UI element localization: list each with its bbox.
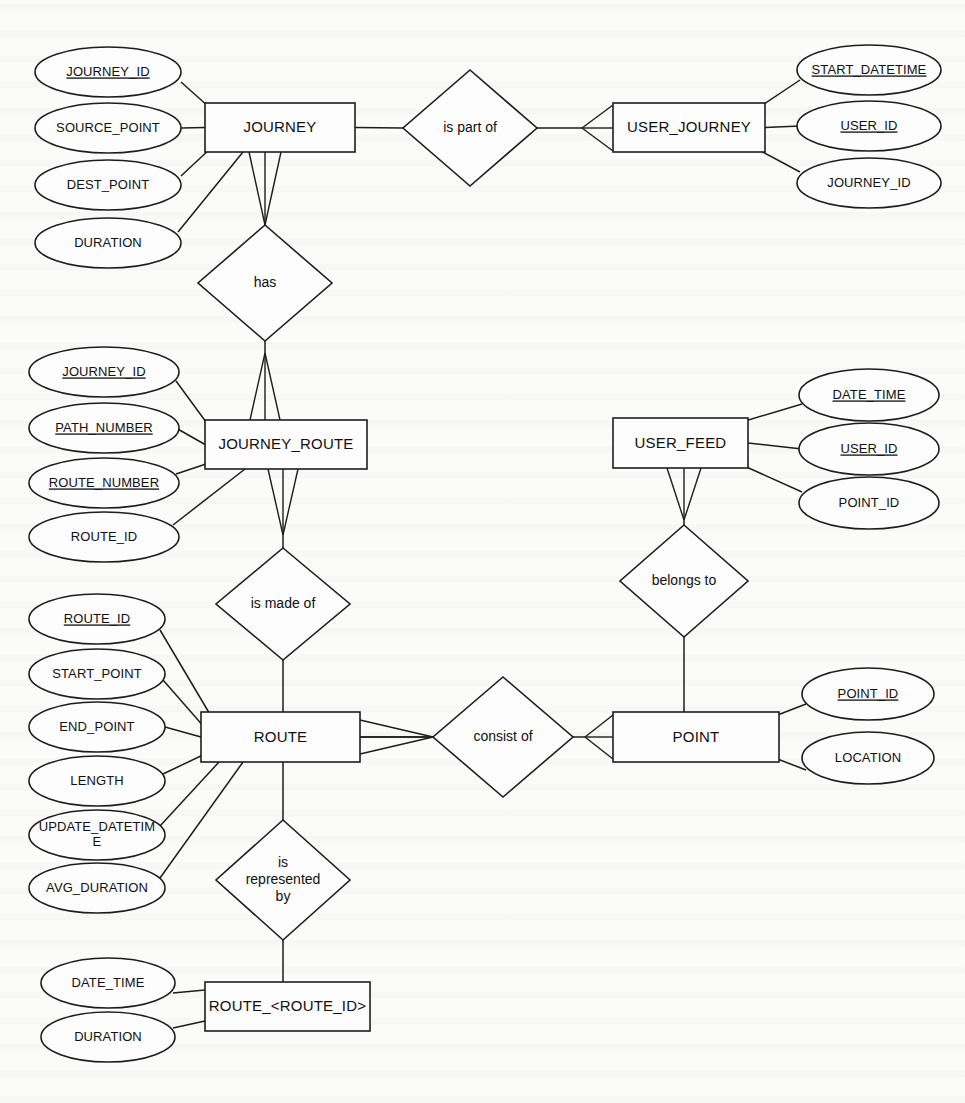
relationship-label: belongs to [652,572,717,588]
attr-link-rt-start-point [163,680,205,728]
attribute-label: START_POINT [52,666,141,681]
attribute-journey-0[interactable]: JOURNEY_ID [35,47,181,97]
attribute-label: PATH_NUMBER [55,420,152,435]
relationship-is-part-of[interactable]: is part of [403,70,537,186]
entity-label: JOURNEY_ROUTE [218,435,353,452]
attr-link-rt-avg-duration [160,762,243,878]
attribute-label: LOCATION [835,750,901,765]
attribute-label: ROUTE_ID [64,611,131,626]
crowsfoot-user-feed [684,468,701,520]
attribute-route_table-0[interactable]: DATE_TIME [41,958,175,1008]
entity-user_journey[interactable]: USER_JOURNEY [613,103,765,152]
attribute-user_feed-0[interactable]: DATE_TIME [799,369,939,421]
crowsfoot-journey-has [249,152,265,225]
crowsfoot-journey-has [265,152,281,225]
entity-point[interactable]: POINT [613,712,779,762]
attribute-journey-3[interactable]: DURATION [35,218,181,268]
entity-user_feed[interactable]: USER_FEED [613,418,748,468]
attribute-user_feed-2[interactable]: POINT_ID [799,477,939,529]
entity-journey[interactable]: JOURNEY [205,103,355,152]
attribute-route-4[interactable]: UPDATE_DATETIME [29,810,165,860]
attr-link-jr-route-number [176,463,209,474]
entity-route[interactable]: ROUTE [201,712,360,762]
attribute-label: DEST_POINT [67,177,150,192]
attribute-route-3[interactable]: LENGTH [29,756,165,806]
relationship-label: has [254,274,277,290]
attribute-label: START_DATETIME [812,62,927,77]
crowsfoot-point [585,737,613,759]
attribute-label: USER_ID [840,118,897,133]
crowsfoot-journey-route-top [250,353,265,420]
attribute-label: DATE_TIME [833,387,906,402]
relationship-label: is part of [443,119,497,135]
attribute-label: DURATION [74,235,142,250]
attr-link-start-datetime [761,80,800,106]
attribute-label: JOURNEY_ID [827,175,910,190]
attr-link-journey-id2 [759,150,800,172]
attr-link-rtt-duration [173,1021,205,1028]
attr-link-uf-date-time [745,404,802,421]
crowsfoot-user-journey [582,105,613,128]
attribute-label: ROUTE_ID [71,529,138,544]
attr-link-source-point [181,128,205,129]
attribute-user_journey-1[interactable]: USER_ID [797,101,941,151]
relationship-consist-of[interactable]: consist of [433,677,573,797]
attr-link-rt-end-point [165,727,201,737]
attribute-journey-2[interactable]: DEST_POINT [35,160,181,210]
attribute-label: DURATION [74,1029,142,1044]
attr-link-rt-length [163,754,205,774]
crowsfoot-journey-route-bottom [268,469,283,535]
attribute-journey_route-1[interactable]: PATH_NUMBER [29,403,179,453]
attribute-point-0[interactable]: POINT_ID [802,668,934,720]
relationship-is-represented-by[interactable]: isrepresentedby [216,820,350,940]
crowsfoot-journey-route-top [265,353,280,420]
attribute-journey-1[interactable]: SOURCE_POINT [35,103,181,153]
attribute-label: USER_ID [840,441,897,456]
attribute-point-1[interactable]: LOCATION [802,732,934,784]
attribute-route_table-1[interactable]: DURATION [41,1012,175,1062]
attr-link-rt-route-id [160,630,211,716]
attribute-label: END_POINT [59,719,134,734]
crowsfoot-user-journey [582,128,613,151]
attribute-journey_route-3[interactable]: ROUTE_ID [29,512,179,562]
rel-link-journey-ispartof [355,128,403,129]
attribute-user_feed-1[interactable]: USER_ID [799,423,939,475]
attr-link-uf-user-id [748,443,802,449]
attr-link-rtt-date-time [173,990,205,993]
entity-label: ROUTE [254,728,308,745]
entity-label: USER_FEED [635,434,727,451]
relationship-has[interactable]: has [198,225,332,341]
relationship-belongs-to[interactable]: belongs to [620,525,748,637]
crowsfoot-point [585,715,613,737]
crowsfoot-route-consistof [360,737,433,754]
attr-link-jr-path-number [176,428,205,445]
entity-route_table[interactable]: ROUTE_<ROUTE_ID> [205,982,370,1031]
attribute-journey_route-2[interactable]: ROUTE_NUMBER [29,458,179,508]
relationship-is-made-of[interactable]: is made of [216,548,350,660]
attribute-route-1[interactable]: START_POINT [29,649,165,699]
attr-link-uf-point-id [742,465,802,492]
attribute-label: JOURNEY_ID [62,364,145,379]
entity-label: ROUTE_<ROUTE_ID> [209,997,366,1014]
attr-link-jr-journey-id [176,381,209,426]
attribute-user_journey-0[interactable]: START_DATETIME [797,45,941,95]
attribute-route-5[interactable]: AVG_DURATION [29,863,165,913]
entity-label: POINT [673,728,720,745]
attribute-label: SOURCE_POINT [56,120,160,135]
entity-label: USER_JOURNEY [627,118,751,135]
attribute-journey_route-0[interactable]: JOURNEY_ID [29,347,179,397]
relationship-label: consist of [473,728,532,744]
attr-link-jr-route-id [173,469,245,525]
entity-label: JOURNEY [243,118,316,135]
attribute-route-2[interactable]: END_POINT [29,702,165,752]
attribute-label: ROUTE_NUMBER [49,475,159,490]
attribute-user_journey-2[interactable]: JOURNEY_ID [797,158,941,208]
crowsfoot-journey-route-bottom [283,469,298,535]
entity-journey_route[interactable]: JOURNEY_ROUTE [205,420,367,469]
attribute-label: POINT_ID [838,686,899,701]
attr-link-user-id [765,126,800,128]
crowsfoot-user-feed [667,468,684,520]
attr-link-duration [178,152,243,232]
attribute-label: JOURNEY_ID [66,64,149,79]
attribute-route-0[interactable]: ROUTE_ID [29,594,165,644]
